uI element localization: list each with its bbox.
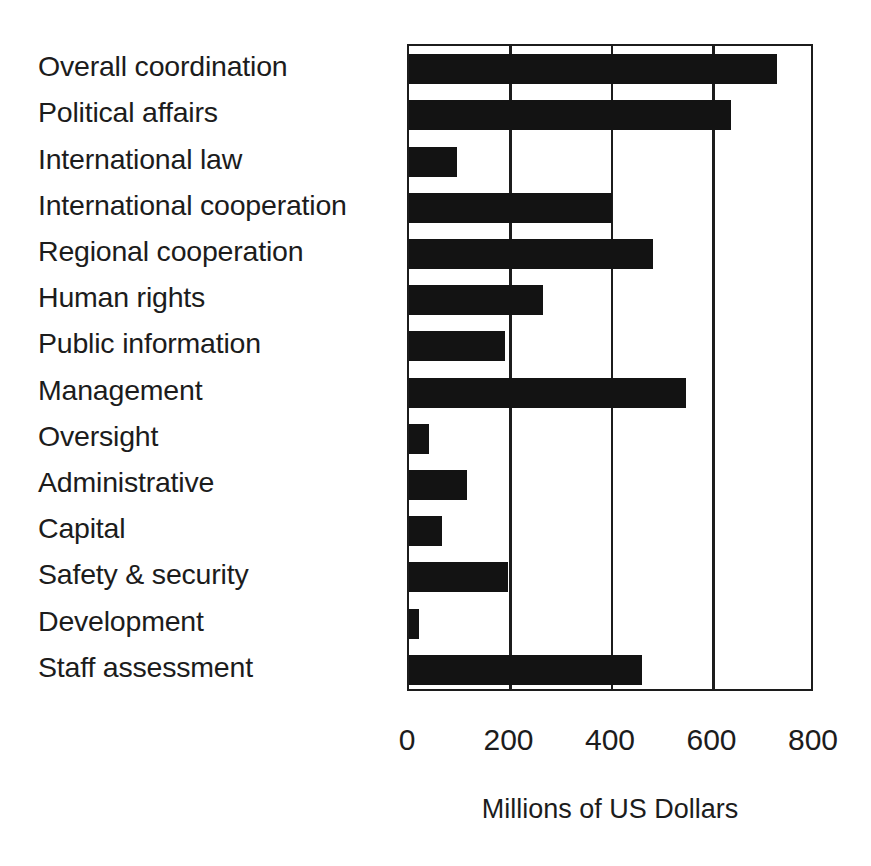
category-label: Staff assessment — [38, 651, 403, 683]
category-label: Oversight — [38, 420, 403, 452]
bar — [409, 285, 543, 315]
category-label: International law — [38, 143, 403, 175]
bar — [409, 424, 429, 454]
category-label: Regional cooperation — [38, 235, 403, 267]
x-tick-label: 200 — [483, 722, 533, 758]
bar — [409, 470, 467, 500]
bar — [409, 331, 505, 361]
plot-area — [407, 44, 813, 691]
category-label: Political affairs — [38, 96, 403, 128]
category-label: International cooperation — [38, 189, 403, 221]
bar — [409, 147, 457, 177]
category-label: Administrative — [38, 466, 403, 498]
bar — [409, 609, 419, 639]
x-tick-label: 800 — [788, 722, 838, 758]
x-tick-label: 0 — [399, 722, 416, 758]
category-axis-labels: Overall coordinationPolitical affairsInt… — [38, 44, 403, 691]
category-label: Management — [38, 374, 403, 406]
bar — [409, 378, 686, 408]
bar — [409, 516, 442, 546]
x-tick-label: 400 — [585, 722, 635, 758]
bar-series — [409, 46, 811, 689]
bar — [409, 100, 731, 130]
category-label: Human rights — [38, 281, 403, 313]
category-label: Capital — [38, 512, 403, 544]
x-axis-title: Millions of US Dollars — [407, 793, 813, 825]
bar — [409, 54, 777, 84]
category-label: Development — [38, 605, 403, 637]
category-label: Overall coordination — [38, 50, 403, 82]
bar — [409, 193, 612, 223]
bar-chart: Overall coordinationPolitical affairsInt… — [0, 0, 871, 866]
bar — [409, 239, 653, 269]
bar — [409, 655, 642, 685]
bar — [409, 562, 508, 592]
category-label: Safety & security — [38, 558, 403, 590]
category-label: Public information — [38, 327, 403, 359]
x-tick-label: 600 — [686, 722, 736, 758]
x-axis-tick-labels: 0200400600800 — [0, 722, 871, 766]
